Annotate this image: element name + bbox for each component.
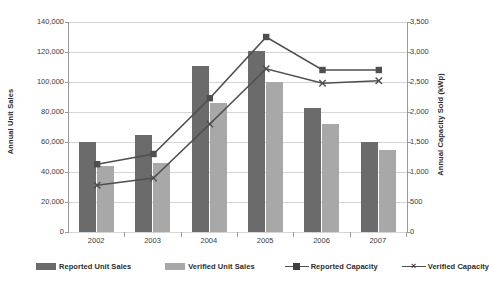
data-point-marker-square[interactable] <box>263 34 269 40</box>
legend-swatch-icon <box>165 263 185 270</box>
y-axis-right-tick-label: 1,000 <box>410 168 429 176</box>
legend-line-x-icon: × <box>402 262 426 271</box>
line-series <box>97 37 379 164</box>
y-axis-left-tick-label: 0 <box>20 228 64 236</box>
legend-swatch-icon <box>36 263 56 270</box>
y-axis-left-tick-label: 100,000 <box>20 78 64 86</box>
legend-item[interactable]: Reported Unit Sales <box>36 262 131 271</box>
y-axis-left-tick-label: 140,000 <box>20 18 64 26</box>
chart-legend: Reported Unit SalesVerified Unit SalesRe… <box>36 258 436 274</box>
legend-label: Reported Unit Sales <box>59 262 131 271</box>
legend-item[interactable]: Verified Unit Sales <box>165 262 254 271</box>
y-axis-left-tick-label: 120,000 <box>20 48 64 56</box>
legend-item[interactable]: ×Verified Capacity <box>402 262 489 271</box>
y-axis-right-tick-label: 3,500 <box>410 18 429 26</box>
legend-square-marker <box>293 263 300 270</box>
legend-label: Verified Capacity <box>428 262 489 271</box>
y-axis-right-tick-label: 2,000 <box>410 108 429 116</box>
y-axis-right-tick-label: 500 <box>410 198 423 206</box>
legend-item[interactable]: Reported Capacity <box>285 262 378 271</box>
x-axis-tick-label: 2005 <box>237 236 293 250</box>
y-axis-right-tick-labels: 05001,0001,5002,0002,5003,0003,500 <box>410 0 450 286</box>
x-axis-tick-label: 2007 <box>350 236 406 250</box>
data-point-marker-square[interactable] <box>94 161 100 167</box>
line-series <box>97 69 379 185</box>
y-axis-right-line <box>407 22 408 232</box>
data-point-marker-square[interactable] <box>319 67 325 73</box>
y-axis-left-tick-labels: 020,00040,00060,00080,000100,000120,0001… <box>20 0 64 286</box>
plot-area <box>68 22 407 233</box>
x-axis-tick-label: 2002 <box>68 236 124 250</box>
data-point-marker-square[interactable] <box>150 151 156 157</box>
y-axis-left-title: Annual Unit Sales <box>6 82 15 162</box>
y-axis-right-tick-label: 2,500 <box>410 78 429 86</box>
y-axis-left-tick-label: 20,000 <box>20 198 64 206</box>
x-axis-tick-label: 2004 <box>181 236 237 250</box>
legend-line-square-icon <box>285 262 309 271</box>
legend-label: Reported Capacity <box>311 262 378 271</box>
y-axis-left-tick-label: 60,000 <box>20 138 64 146</box>
legend-x-marker: × <box>410 262 418 271</box>
data-point-marker-x[interactable] <box>207 121 213 127</box>
data-point-marker-square[interactable] <box>376 67 382 73</box>
y-axis-right-tick-label: 0 <box>410 228 414 236</box>
y-axis-right-tick-label: 3,000 <box>410 48 429 56</box>
data-point-marker-square[interactable] <box>207 95 213 101</box>
x-axis-tick-label: 2006 <box>293 236 349 250</box>
legend-label: Verified Unit Sales <box>188 262 254 271</box>
x-axis-tick-label: 2003 <box>124 236 180 250</box>
x-axis-tick-labels: 200220032004200520062007 <box>68 236 406 250</box>
y-axis-right-tick-label: 1,500 <box>410 138 429 146</box>
y-axis-left-tick-label: 80,000 <box>20 108 64 116</box>
lines-layer <box>69 22 407 232</box>
y-axis-left-tick-label: 40,000 <box>20 168 64 176</box>
